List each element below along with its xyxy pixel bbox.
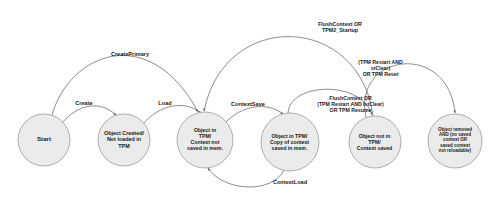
node-object-in-tpm-context-copy[interactable] <box>261 113 319 171</box>
edge-label-create-primary: CreatePrimary <box>95 51 165 58</box>
edge-label-tpm-restart-stclear-reset: (TPM Restart AND stClear) OR TPM Reset <box>338 59 423 78</box>
node-start[interactable] <box>18 114 70 166</box>
edge-label-context-save: ContextSave <box>218 101 278 108</box>
node-object-in-tpm-no-context[interactable] <box>177 112 233 168</box>
edge-label-create: Create <box>66 100 102 107</box>
edge-label-context-load: ContextLoad <box>260 179 320 186</box>
diagram-canvas: Start Object Created/ Not loaded in TPM … <box>0 0 493 205</box>
edge-label-load: Load <box>150 100 180 107</box>
node-object-not-in-tpm-context-saved[interactable] <box>349 116 401 168</box>
node-object-removed[interactable] <box>428 114 482 168</box>
edge-label-flush-context-lstclear-resume: FlushContext OR (TPM Restart AND lstClea… <box>293 95 408 114</box>
node-object-created[interactable] <box>98 114 150 166</box>
edge-label-flush-context-startup: FlushContext OR TPM2_Startup <box>300 21 380 34</box>
